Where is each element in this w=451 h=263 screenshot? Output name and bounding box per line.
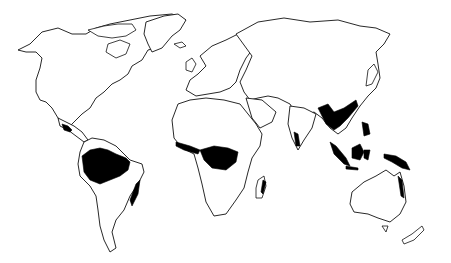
philippines-forest (362, 122, 370, 136)
india (288, 106, 316, 150)
world-map (0, 0, 451, 263)
sulawesi-forest (364, 150, 370, 160)
sumatra-forest (330, 142, 350, 166)
australia (350, 170, 406, 222)
new-guinea-forest (384, 154, 410, 170)
new-zealand (402, 226, 424, 244)
iceland (174, 42, 186, 48)
tasmania (382, 226, 388, 232)
british-isles (186, 58, 196, 72)
borneo-forest (352, 144, 364, 160)
java-forest (346, 166, 358, 170)
